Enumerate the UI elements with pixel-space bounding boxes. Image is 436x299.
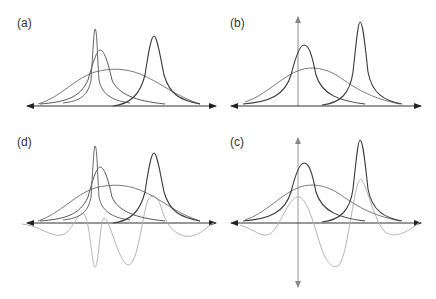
broad-peak-curve: [38, 69, 200, 104]
figure-svg: [0, 0, 436, 299]
medium-peak-curve: [40, 167, 165, 221]
broad-peak-curve: [245, 68, 400, 104]
panel-a: [27, 29, 216, 106]
right-peak-curve: [113, 36, 200, 106]
panel-d: [22, 146, 216, 267]
figure: (a) (b) (d) (c): [0, 0, 436, 299]
difference-curve: [22, 196, 214, 267]
narrow-spike-curve: [63, 146, 130, 220]
broad-peak-curve: [38, 185, 200, 221]
narrow-spike-curve: [63, 29, 130, 103]
right-peak-curve: [322, 22, 402, 105]
broad-peak-curve: [245, 185, 400, 221]
right-peak-curve: [113, 153, 200, 223]
medium-peak-curve: [243, 45, 365, 104]
panel-b: [231, 17, 421, 106]
panel-c: [231, 138, 421, 287]
